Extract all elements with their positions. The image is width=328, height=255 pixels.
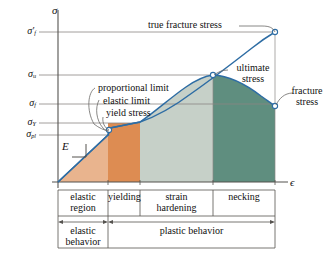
leader-true-fracture-stress	[239, 26, 275, 32]
plastic-behavior-arrow-left	[108, 220, 113, 224]
necking-region-fill	[213, 75, 275, 182]
annotation-elastic-limit: elastic limit	[103, 96, 150, 107]
region-label-strain-hardening: strainhardening	[140, 192, 213, 213]
modulus-slope-triangle	[72, 144, 86, 157]
elastic-behavior-arrow-right	[103, 220, 108, 224]
annotation-true-fracture-stress: true fracture stress	[148, 20, 222, 31]
annotation-modulus-E: E	[62, 140, 69, 152]
marker-ultimate-stress	[210, 72, 215, 77]
ytick-sigma-f-true: σ′f	[8, 25, 36, 36]
yielding-region-fill	[108, 123, 140, 182]
annotation-proportional-limit: proportional limit	[98, 83, 169, 94]
ytick-sigma-u: σu	[8, 68, 36, 79]
elastic-behavior-arrow-left	[58, 220, 63, 224]
diagram-canvas	[0, 0, 328, 255]
stress-strain-diagram: σ ϵ σ′f σu σf σY σpl true fracture stres…	[0, 0, 328, 255]
behavior-label-elastic-behavior: elasticbehavior	[58, 226, 108, 247]
annotation-ultimate-stress: ultimate stress	[230, 63, 276, 84]
region-label-yielding: yielding	[108, 192, 140, 203]
behavior-label-plastic-behavior: plastic behavior	[108, 226, 275, 237]
x-axis-label: ϵ	[290, 176, 294, 188]
annotation-yield-stress: yield stress	[106, 108, 151, 119]
region-label-necking: necking	[213, 192, 275, 203]
y-axis-label: σ	[52, 4, 57, 16]
ytick-sigma-Y: σY	[8, 116, 36, 127]
plastic-behavior-arrow-right	[270, 220, 275, 224]
ytick-sigma-f: σf	[8, 97, 36, 108]
ytick-sigma-pl: σpl	[6, 128, 36, 139]
annotation-fracture-stress: fracture stress	[286, 86, 328, 107]
region-label-elastic-region: elasticregion	[58, 192, 108, 213]
